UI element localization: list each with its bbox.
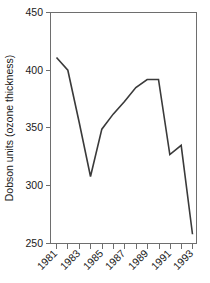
y-tick-label-350: 350	[25, 121, 43, 133]
y-tick-label-250: 250	[25, 237, 43, 249]
chart-canvas: 450 400 350 300 250 Dobson units (ozone …	[0, 0, 210, 283]
y-tick-label-450: 450	[25, 6, 43, 18]
y-axis-title: Dobson units (ozone thickness)	[3, 55, 15, 202]
y-tick-label-300: 300	[25, 179, 43, 191]
y-tick-label-400: 400	[25, 64, 43, 76]
ozone-line-chart: 450 400 350 300 250 Dobson units (ozone …	[0, 0, 210, 283]
